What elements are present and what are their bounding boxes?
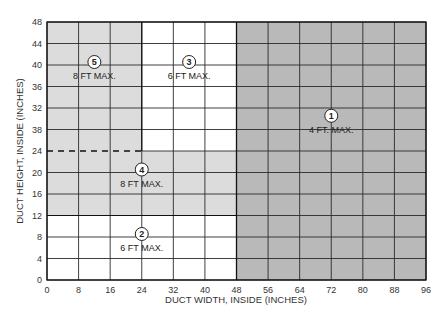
x-tick-label: 88 [389, 285, 399, 295]
x-tick-label: 8 [76, 285, 81, 295]
y-tick-label: 48 [32, 17, 42, 27]
duct-size-chart: 081624324048566472808896 048121620243832… [0, 0, 444, 321]
y-axis-label: DUCT HEIGHT, INSIDE (INCHES) [14, 78, 25, 224]
y-tick-label: 16 [32, 189, 42, 199]
svg-text:4: 4 [139, 165, 144, 175]
y-tick-label: 38 [32, 125, 42, 135]
x-tick-label: 80 [358, 285, 368, 295]
region-max-label: 8 FT MAX. [120, 179, 163, 189]
x-tick-label: 96 [421, 285, 431, 295]
y-tick-label: 8 [37, 232, 42, 242]
x-tick-label: 24 [137, 285, 147, 295]
region-max-label: 6 FT MAX. [168, 71, 211, 81]
svg-text:2: 2 [139, 229, 144, 239]
region-max-label: 8 FT MAX. [73, 71, 116, 81]
y-tick-label: 0 [37, 275, 42, 285]
y-tick-label: 12 [32, 211, 42, 221]
svg-text:1: 1 [329, 111, 334, 121]
y-tick-label: 4 [37, 254, 42, 264]
y-tick-label: 40 [32, 60, 42, 70]
region-max-label: 6 FT MAX. [120, 243, 163, 253]
svg-text:5: 5 [92, 57, 97, 67]
x-axis-label: DUCT WIDTH, INSIDE (INCHES) [165, 294, 307, 305]
x-tick-label: 0 [44, 285, 49, 295]
y-tick-label: 36 [32, 82, 42, 92]
y-axis-ticks: 04812162024383236404448 [32, 17, 42, 285]
region-max-label: 4 FT. MAX. [309, 125, 354, 135]
x-tick-label: 16 [105, 285, 115, 295]
y-tick-label: 20 [32, 168, 42, 178]
x-tick-label: 72 [326, 285, 336, 295]
y-tick-label: 44 [32, 39, 42, 49]
y-tick-label: 32 [32, 103, 42, 113]
y-tick-label: 24 [32, 146, 42, 156]
svg-text:3: 3 [187, 57, 192, 67]
